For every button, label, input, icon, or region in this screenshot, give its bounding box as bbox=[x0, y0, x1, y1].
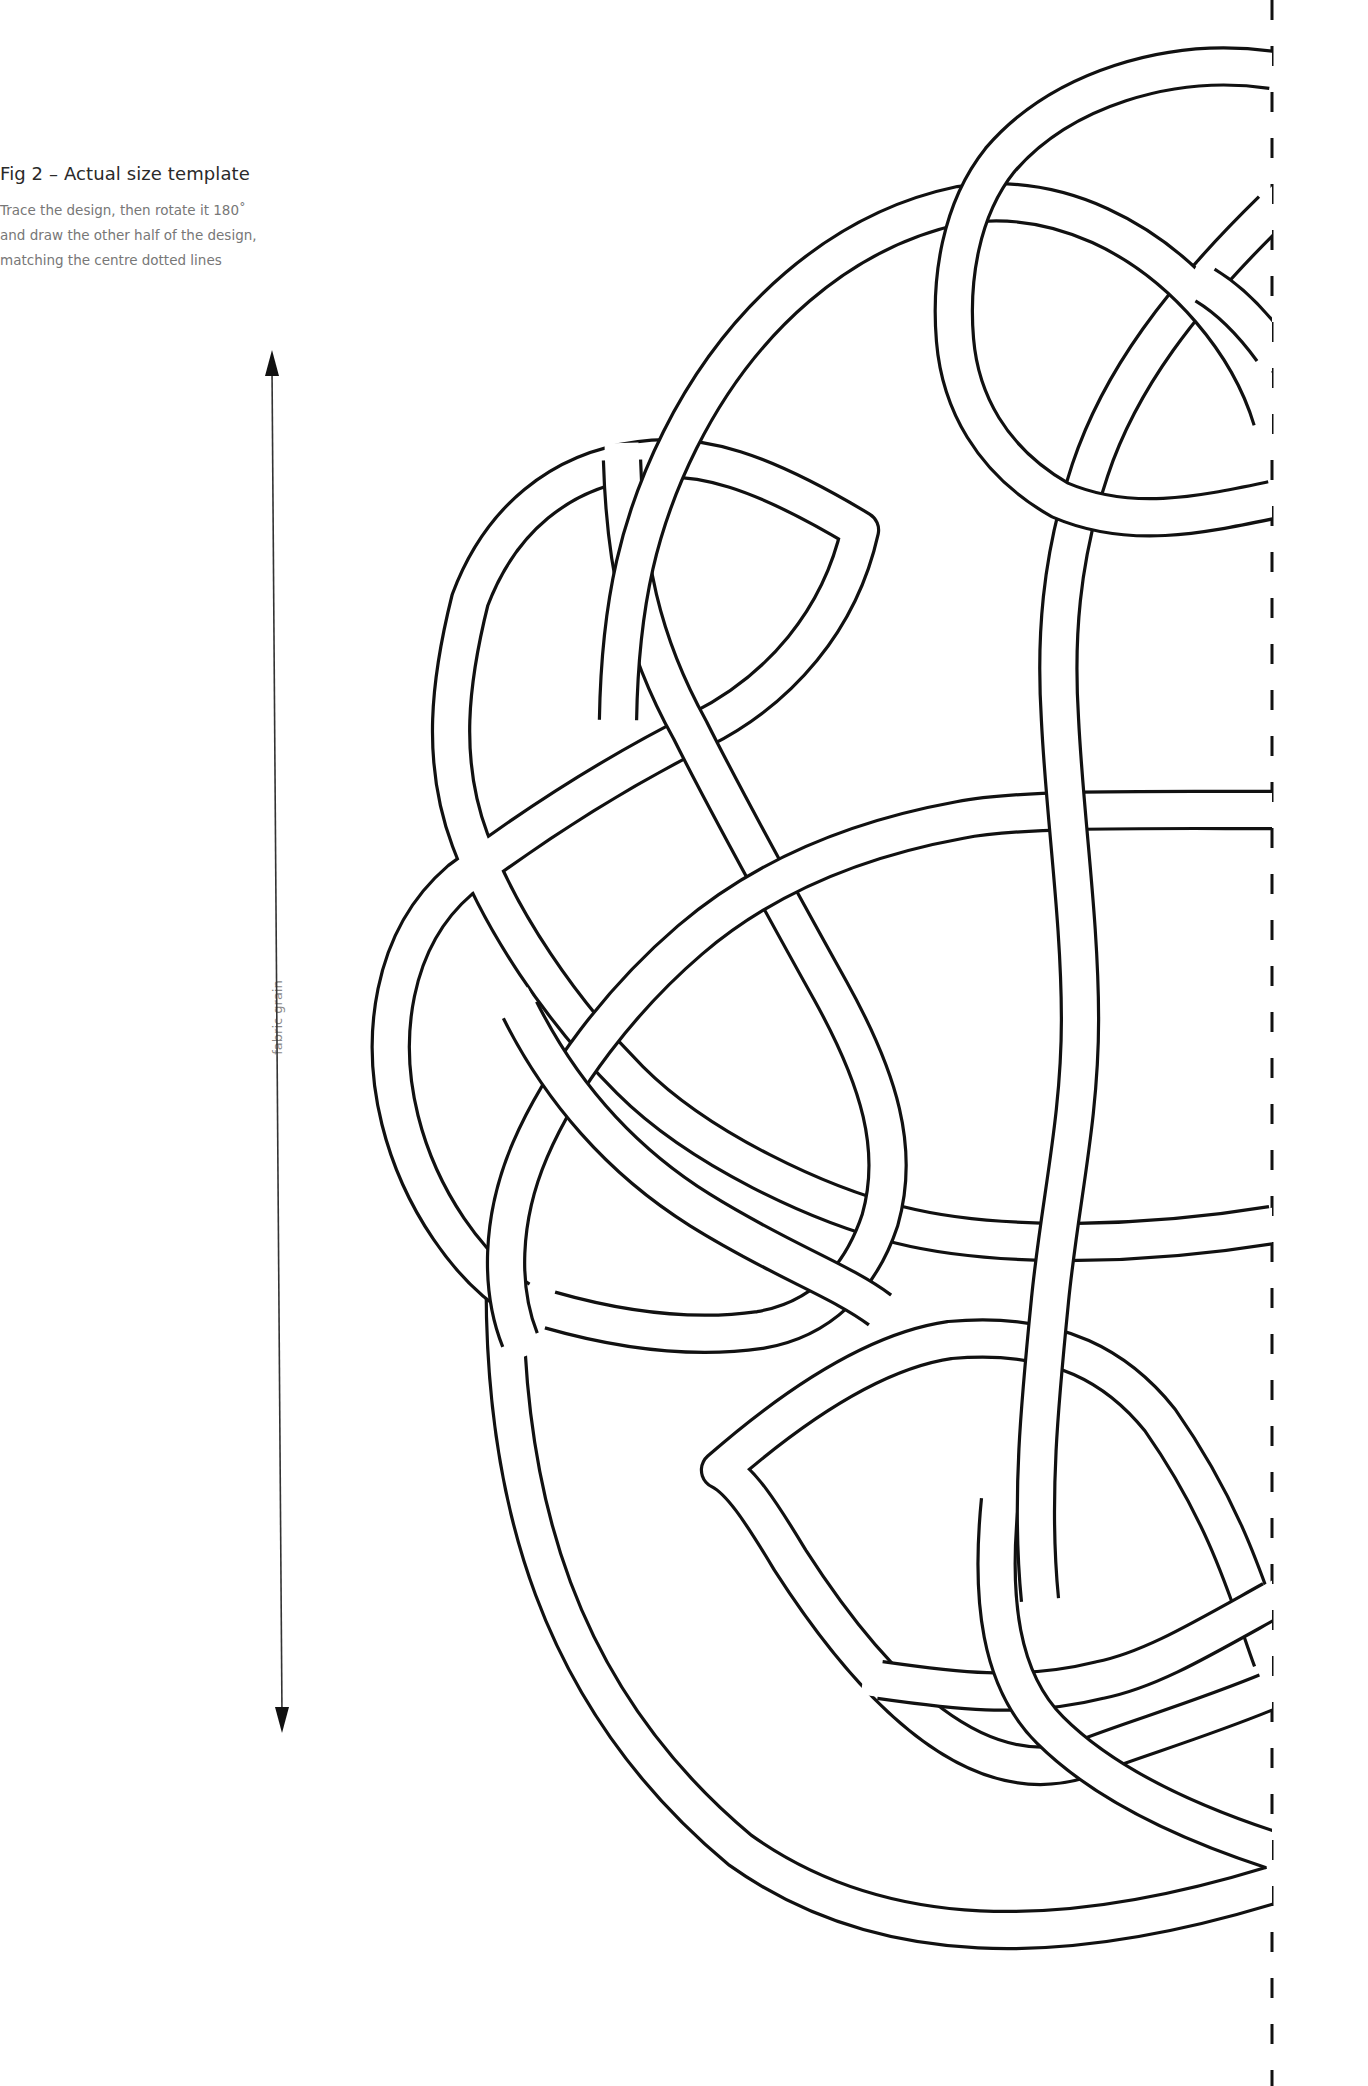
grain-arrow bbox=[265, 350, 289, 1733]
template-artwork bbox=[0, 0, 1368, 2086]
grain-arrow-line bbox=[272, 368, 282, 1715]
celtic-knot-half bbox=[391, 67, 1272, 1931]
arrow-up-icon bbox=[265, 350, 279, 376]
knot-strand-lower-cross bbox=[880, 1600, 1272, 1692]
arrow-down-icon bbox=[275, 1707, 289, 1733]
